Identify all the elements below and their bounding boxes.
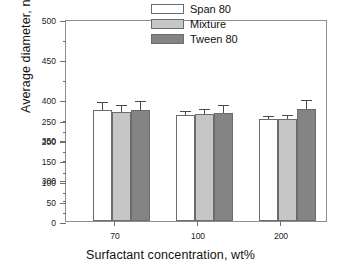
legend-label-mixture: Mixture [190,18,226,31]
y-tick-250: 250 [60,122,66,123]
errorbar-tween80-100 [223,106,224,113]
y-tick-label-250: 250 [42,116,56,129]
y-tick-label-500: 500 [42,15,56,28]
errorbar-tween80-70 [140,102,141,110]
legend-item-span80: Span 80 [151,2,259,16]
errorbar-span80-100 [185,112,186,115]
legend-item-mixture: Mixture [151,17,259,31]
errorbar-span80-200 [268,117,269,119]
x-axis-title: Surfactant concentration, wt% [0,248,341,262]
x-tick-100: 100 [197,221,198,226]
y-tick-500: 500 [60,21,66,22]
errorbar-mixture-200 [287,116,288,120]
bar-span80-100 [176,115,195,221]
legend-item-tween80: Tween 80 [151,32,259,46]
y-tick-minor-175 [63,152,66,153]
errorcap-mixture-200 [282,115,293,116]
y-tick-label-50: 50 [47,197,56,210]
y-tick-minor-425 [63,81,66,82]
legend-swatch-mixture [151,19,184,29]
chart-figure: Average diameter, nm Surfactant concentr… [0,0,341,272]
plot-area: 500 450 400 350 300 70 100 200 [65,20,327,222]
y-tick-450: 450 [60,61,66,62]
legend-swatch-tween80 [151,34,184,44]
bar-span80-200 [259,119,278,221]
y-tick-0: 0 [60,223,66,224]
y-tick-50: 50 [60,203,66,204]
errorcap-mixture-70 [116,105,127,106]
errorbar-tween80-200 [306,101,307,108]
errorcap-span80-200 [263,116,274,117]
y-tick-minor-225 [63,132,66,133]
y-axis-title: Average diameter, nm [18,0,34,151]
bar-span80-70 [93,110,112,222]
x-tick-200: 200 [280,221,281,226]
y-tick-minor-75 [63,193,66,194]
y-tick-minor-25 [63,213,66,214]
x-tick-70: 70 [114,221,115,226]
y-tick-label-450: 450 [42,55,56,68]
errorcap-span80-100 [180,111,191,112]
y-tick-200: 200 [60,142,66,143]
bar-mixture-200 [278,119,297,221]
errorcap-span80-70 [97,102,108,103]
bar-tween80-200 [297,109,316,221]
y-tick-100: 100 [60,183,66,184]
x-tick-label-200: 200 [274,231,288,241]
errorcap-tween80-100 [218,105,229,106]
y-tick-label-150: 150 [42,156,56,169]
y-tick-label-200: 200 [42,136,56,149]
legend-label-tween80: Tween 80 [190,33,238,46]
y-tick-400: 400 [60,101,66,102]
y-tick-label-400: 400 [42,95,56,108]
x-tick-label-70: 70 [110,231,119,241]
errorcap-tween80-70 [135,101,146,102]
legend-label-span80: Span 80 [190,3,231,16]
bar-mixture-70 [112,112,131,222]
errorbar-mixture-100 [204,110,205,115]
x-tick-label-100: 100 [191,231,205,241]
errorbar-mixture-70 [121,106,122,112]
y-tick-150: 150 [60,162,66,163]
errorcap-mixture-100 [199,109,210,110]
errorcap-tween80-200 [301,100,312,101]
y-tick-label-100: 100 [42,177,56,190]
chart-legend: Span 80 Mixture Tween 80 [151,2,259,47]
bar-tween80-100 [214,113,233,221]
errorbar-span80-70 [102,103,103,110]
bar-mixture-100 [195,114,214,221]
bar-tween80-70 [131,110,150,221]
y-tick-minor-125 [63,173,66,174]
legend-swatch-span80 [151,4,184,14]
y-tick-label-0: 0 [51,217,56,230]
y-tick-minor-475 [63,41,66,42]
